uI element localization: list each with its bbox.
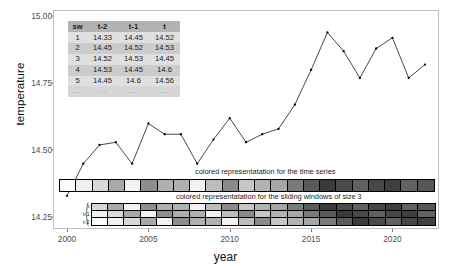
sliding-window: [369, 204, 385, 225]
sliding-window: [386, 204, 402, 225]
strip-cell: [288, 180, 304, 191]
window-cell: [353, 218, 368, 225]
x-tick-label: 2015: [291, 234, 331, 244]
window-cell: [92, 218, 107, 225]
window-cell: [124, 204, 139, 211]
table-cell: ...: [87, 86, 118, 96]
table-cell: 4: [68, 65, 87, 76]
strip-cell: [60, 180, 76, 191]
table-row: 214.4514.5214.53: [68, 43, 180, 54]
table-row: ............: [68, 86, 180, 96]
sliding-window: [108, 204, 124, 225]
data-point: [163, 133, 165, 135]
table-body: 114.3314.4514.52214.4514.5214.53314.5214…: [68, 32, 180, 97]
data-point: [326, 31, 328, 33]
strip-cell: [93, 180, 109, 191]
window-cell: [271, 204, 286, 211]
window-cell: [386, 218, 401, 225]
sliding-window: [141, 204, 157, 225]
windows-strip-caption: colored representatation for the sliding…: [176, 192, 362, 201]
window-cell: [190, 218, 205, 225]
data-point: [115, 141, 117, 143]
window-cell: [402, 218, 417, 225]
window-cell: [337, 218, 352, 225]
sliding-window: [124, 204, 140, 225]
window-cell: [124, 218, 139, 225]
window-cell: [255, 211, 270, 218]
window-cell: [239, 218, 254, 225]
window-cell: [353, 211, 368, 218]
sliding-window: [353, 204, 369, 225]
data-point: [342, 50, 344, 52]
sliding-window: [239, 204, 255, 225]
table-row: 514.4514.614.56: [68, 76, 180, 87]
window-cell: [173, 218, 188, 225]
y-axis-ticks: 14.2514.5014.7515.00: [10, 0, 52, 268]
sliding-window: [157, 204, 173, 225]
x-axis-title: year: [0, 250, 451, 264]
table-column-header: t: [149, 21, 180, 32]
table-cell: 3: [68, 54, 87, 65]
strip-cell: [271, 180, 287, 191]
window-cell: [108, 218, 123, 225]
strip-cell: [158, 180, 174, 191]
window-cell: [304, 211, 319, 218]
table-column-header: sw: [68, 21, 87, 32]
data-point: [375, 47, 377, 49]
table-column-header: t-2: [87, 21, 118, 32]
window-cell: [124, 211, 139, 218]
data-point: [261, 133, 263, 135]
x-tick-label: 2000: [47, 234, 87, 244]
figure-root: temperature 14.2514.5014.7515.00 swt-2t-…: [0, 0, 451, 268]
table-cell: 14.6: [118, 76, 149, 87]
strip-cell: [223, 180, 239, 191]
strip-cell: [369, 180, 385, 191]
window-cell: [386, 204, 401, 211]
x-tick-mark: [392, 229, 393, 232]
window-cell: [222, 204, 237, 211]
sliding-window: [255, 204, 271, 225]
strip-cell: [174, 180, 190, 191]
window-cell: [369, 204, 384, 211]
window-cell: [320, 211, 335, 218]
data-point: [424, 63, 426, 65]
window-cell: [239, 211, 254, 218]
window-cell: [206, 204, 221, 211]
table-cell: 14.45: [87, 76, 118, 87]
x-tick-mark: [230, 229, 231, 232]
table-column-header: t-1: [118, 21, 149, 32]
window-cell: [206, 218, 221, 225]
window-cell: [92, 211, 107, 218]
window-cell: [173, 204, 188, 211]
strip-cell: [320, 180, 336, 191]
table-header-row: swt-2t-1t: [68, 21, 180, 32]
sliding-window: [337, 204, 353, 225]
sliding-window: [304, 204, 320, 225]
table-cell: 14.53: [118, 54, 149, 65]
table-cell: 14.53: [87, 65, 118, 76]
y-tick-label: 14.75: [18, 78, 52, 88]
strip-cell: [141, 180, 157, 191]
window-cell: [108, 211, 123, 218]
x-tick-label: 2005: [128, 234, 168, 244]
strip-cell: [109, 180, 125, 191]
data-point: [98, 144, 100, 146]
table-cell: ...: [68, 86, 87, 96]
data-point: [82, 163, 84, 165]
x-tick-mark: [148, 229, 149, 232]
sliding-window: [271, 204, 287, 225]
sliding-window-table: swt-2t-1t 114.3314.4514.52214.4514.5214.…: [68, 21, 180, 97]
window-cell: [157, 204, 172, 211]
sliding-window: [92, 204, 108, 225]
table-cell: 14.45: [118, 32, 149, 43]
strip-cell: [125, 180, 141, 191]
sliding-window: [222, 204, 238, 225]
window-row-label: t: [88, 203, 90, 209]
data-point: [66, 195, 68, 197]
sliding-window: [288, 204, 304, 225]
window-cell: [108, 204, 123, 211]
window-cell: [255, 218, 270, 225]
window-cell: [141, 218, 156, 225]
strip-cell: [255, 180, 271, 191]
data-point: [147, 122, 149, 124]
